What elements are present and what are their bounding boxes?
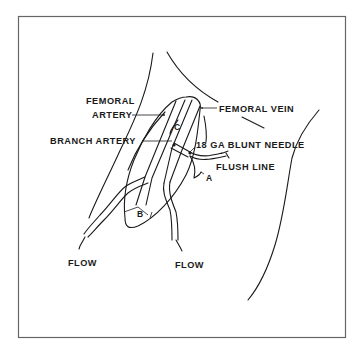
right-flow-vessel-left: [163, 183, 172, 240]
label-femoral-vein: FEMORAL VEIN: [219, 104, 294, 114]
label-marker-c: C: [174, 122, 181, 132]
flush-line-upper: [190, 151, 228, 156]
label-needle: 18 GA BLUNT NEEDLE: [196, 140, 305, 150]
abdomen-contour: [167, 52, 218, 102]
ligature-a-pointer: [201, 172, 204, 174]
label-flow-left: FLOW: [68, 258, 97, 268]
label-branch-artery: BRANCH ARTERY: [50, 136, 136, 146]
flush-line-lower: [190, 156, 226, 159]
label-marker-b: B: [137, 209, 144, 219]
label-marker-a: A: [206, 173, 213, 183]
figure-frame: [19, 17, 346, 338]
diagram: FEMORAL ARTERY FEMORAL VEIN BRANCH ARTER…: [0, 0, 362, 356]
left-flow-arrow: [79, 237, 85, 249]
needle-tip-dot: [172, 143, 175, 146]
label-femoral-artery-line2: ARTERY: [92, 110, 132, 120]
label-flush-line: FLUSH LINE: [216, 162, 275, 172]
right-flow-arrow: [176, 240, 182, 251]
leader-femoral-vein-tip: [201, 107, 203, 109]
incision-right-flap: [204, 116, 206, 142]
flush-line-tail: [226, 153, 229, 158]
inguinal-contour: [242, 117, 264, 128]
thigh-contour-right: [248, 110, 319, 300]
label-flow-right: FLOW: [175, 260, 204, 270]
leader-femoral-artery-tip: [163, 114, 165, 116]
ligature-b-line: [124, 207, 148, 215]
label-femoral-artery-line1: FEMORAL: [86, 96, 135, 106]
